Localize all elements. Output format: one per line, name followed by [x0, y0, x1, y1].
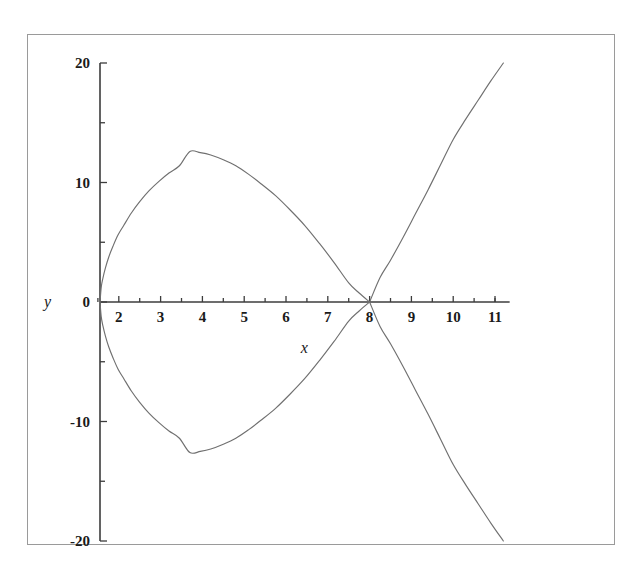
plot-canvas [0, 0, 641, 561]
x-tick-label: 2 [115, 310, 123, 325]
x-tick-label: 6 [282, 310, 290, 325]
x-tick-label: 10 [446, 310, 461, 325]
y-tick-label: -10 [70, 414, 90, 429]
y-tick-label: 0 [83, 295, 91, 310]
y-tick-label: 20 [75, 56, 90, 71]
y-tick-label: -20 [70, 534, 90, 549]
plot-figure: 23456789101120100-10-20 x y [0, 0, 641, 561]
x-tick-label: 7 [324, 310, 332, 325]
curve-right-upper-branch [370, 63, 504, 302]
x-tick-label: 9 [408, 310, 416, 325]
y-axis-label: y [44, 294, 51, 310]
curve-upper-branch [100, 151, 370, 302]
x-tick-label: 3 [157, 310, 165, 325]
x-tick-label: 8 [366, 310, 374, 325]
x-tick-label: 5 [240, 310, 248, 325]
y-tick-label: 10 [75, 175, 90, 190]
curve-right-lower-branch [370, 302, 504, 541]
axis-lines [100, 63, 510, 541]
x-tick-label: 11 [488, 310, 502, 325]
x-tick-label: 4 [199, 310, 207, 325]
x-axis-label: x [301, 340, 308, 356]
